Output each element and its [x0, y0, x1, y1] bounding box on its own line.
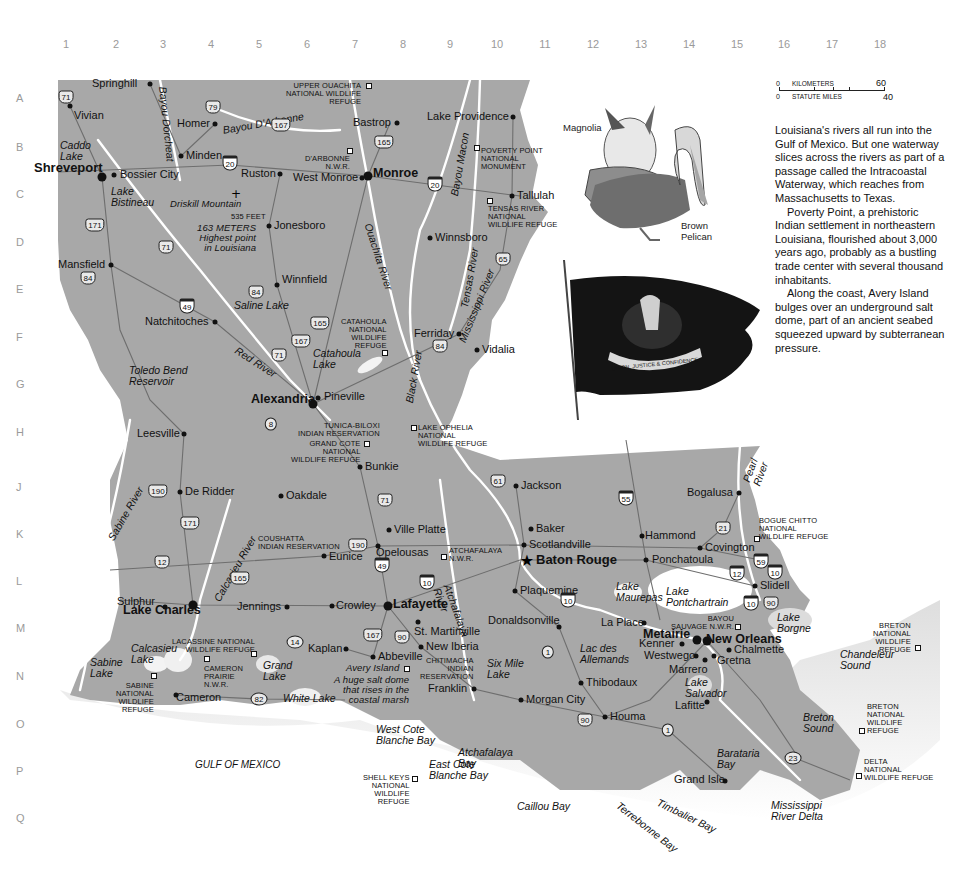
city-label[interactable]: Bunkie — [365, 461, 399, 473]
city-label[interactable]: Hammond — [645, 530, 696, 542]
city-dot-icon — [384, 602, 393, 611]
scale-line — [779, 90, 885, 91]
city-label[interactable]: Tallulah — [517, 190, 554, 202]
city-label[interactable]: Westwego — [644, 650, 695, 662]
grid-column-label: 16 — [778, 38, 790, 50]
refuge-marker-icon — [412, 776, 418, 782]
city-label[interactable]: Lafitte — [675, 700, 705, 712]
refuge-marker-icon — [204, 656, 210, 662]
grid-column-label: 5 — [256, 38, 262, 50]
city-label[interactable]: Gretna — [717, 655, 751, 667]
city-label[interactable]: Ruston — [241, 168, 276, 180]
city-dot-icon — [178, 490, 183, 495]
city-label[interactable]: De Ridder — [185, 486, 235, 498]
city-label[interactable]: Covington — [705, 542, 755, 554]
city-label[interactable]: Mansfield — [58, 259, 105, 271]
city-label[interactable]: Cameron — [176, 692, 221, 704]
city-label[interactable]: Baker — [536, 523, 565, 535]
city-label[interactable]: Natchitoches — [145, 316, 209, 328]
grid-row-label: L — [16, 575, 22, 587]
city-label[interactable]: Kaplan — [308, 643, 342, 655]
us-route-shield-icon: 84 — [433, 340, 448, 353]
city-label[interactable]: Ponchatoula — [652, 554, 713, 566]
city-label[interactable]: Bastrop — [353, 117, 391, 129]
city-label[interactable]: Kenner — [639, 638, 674, 650]
capital-label[interactable]: Baton Rouge — [536, 553, 617, 567]
refuge-marker-icon — [441, 554, 447, 560]
us-route-shield-icon: 71 — [59, 91, 74, 104]
magnolia-label: Magnolia — [563, 122, 602, 133]
city-label[interactable]: Ferriday — [414, 328, 454, 340]
city-label[interactable]: Minden — [186, 150, 222, 162]
landmark-label: 535 FEET — [231, 213, 266, 221]
city-label[interactable]: Scotlandville — [529, 539, 591, 551]
city-dot-icon — [112, 173, 117, 178]
city-dot-icon — [279, 494, 284, 499]
landmark-label: COUSHATTA INDIAN RESERVATION — [258, 535, 340, 551]
city-label[interactable]: La Place — [601, 617, 644, 629]
city-label[interactable]: Oakdale — [286, 490, 327, 502]
city-label[interactable]: Homer — [177, 118, 210, 130]
pelican-label: Brown Pelican — [681, 220, 712, 242]
grid-row-label: P — [16, 765, 23, 777]
city-label[interactable]: Slidell — [760, 580, 789, 592]
city-dot-icon — [330, 604, 335, 609]
state-route-shield-icon: 82 — [251, 693, 268, 706]
city-label[interactable]: Shreveport — [34, 161, 103, 175]
city-label[interactable]: Monroe — [373, 167, 418, 180]
city-label[interactable]: West Monroe — [293, 172, 358, 184]
city-dot-icon — [213, 320, 218, 325]
city-dot-icon — [705, 700, 710, 705]
city-dot-icon — [371, 655, 376, 660]
city-label[interactable]: Ville Platte — [394, 524, 446, 536]
grid-row-label: E — [16, 283, 23, 295]
refuge-marker-icon — [859, 728, 865, 734]
city-label[interactable]: Franklin — [428, 683, 467, 695]
us-route-shield-icon: 71 — [378, 494, 393, 507]
city-label[interactable]: Pineville — [324, 391, 365, 403]
city-label[interactable]: Donaldsonville — [488, 615, 560, 627]
us-route-shield-icon: 65 — [496, 253, 511, 266]
city-label[interactable]: Lake Charles — [123, 604, 201, 617]
city-label[interactable]: Grand Isle — [674, 774, 725, 786]
city-label[interactable]: Marrero — [669, 664, 708, 676]
city-label[interactable]: Leesville — [137, 428, 180, 440]
city-label[interactable]: Jennings — [237, 601, 281, 613]
water-feature-label: West Cote Blanche Bay — [376, 724, 435, 746]
grid-column-label: 8 — [400, 38, 406, 50]
city-label[interactable]: Bogalusa — [687, 487, 733, 499]
refuge-marker-icon — [366, 83, 372, 89]
city-label[interactable]: New Iberia — [426, 641, 479, 653]
city-label[interactable]: Crowley — [336, 600, 376, 612]
city-label[interactable]: Abbeville — [378, 651, 423, 663]
us-route-shield-icon: 12 — [155, 556, 170, 569]
city-label[interactable]: Morgan City — [526, 694, 585, 706]
water-feature-label: Toledo Bend Reservoir — [129, 365, 188, 387]
city-label[interactable]: Winnsboro — [435, 232, 488, 244]
city-label[interactable]: Bossier City — [120, 169, 179, 181]
city-label[interactable]: Lake Providence — [427, 111, 509, 123]
refuge-marker-icon — [411, 425, 417, 431]
refuge-marker-icon — [915, 645, 921, 651]
city-label[interactable]: Alexandria — [251, 393, 315, 406]
interstate-shield-icon: 10 — [420, 575, 435, 590]
water-feature-label: Lac des Allemands — [580, 643, 629, 665]
city-label[interactable]: Vivian — [74, 110, 104, 122]
water-feature-label: Barataria Bay — [717, 748, 760, 770]
city-dot-icon — [182, 432, 187, 437]
city-label[interactable]: Thibodaux — [586, 677, 637, 689]
city-label[interactable]: Houma — [610, 711, 645, 723]
city-label[interactable]: Eunice — [329, 551, 363, 563]
city-label[interactable]: Vidalia — [482, 344, 515, 356]
water-feature-label: Catahoula Lake — [313, 348, 361, 370]
city-dot-icon — [727, 648, 732, 653]
city-label[interactable]: Springhill — [92, 78, 137, 90]
city-dot-icon — [753, 584, 758, 589]
city-label[interactable]: Winnfield — [282, 274, 327, 286]
city-dot-icon — [475, 348, 480, 353]
essay-text: Louisiana's rivers all run into the Gulf… — [775, 124, 950, 355]
city-label[interactable]: Jonesboro — [274, 220, 325, 232]
grid-row-label: D — [16, 236, 24, 248]
km-label: KILOMETERS — [792, 81, 834, 88]
city-label[interactable]: Jackson — [521, 480, 561, 492]
